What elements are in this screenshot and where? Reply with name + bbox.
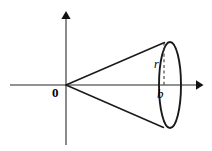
radius-label: r [154,58,159,70]
cone-diagram-figure: 0 r b [0,0,212,151]
x-axis [10,80,204,90]
cone-upper-slant-line [66,43,165,86]
y-axis [61,11,70,145]
base-position-label: b [157,87,164,100]
x-axis-arrowhead-icon [196,80,204,90]
y-axis-arrowhead-icon [61,11,70,19]
origin-label: 0 [52,86,59,99]
diagram-canvas [0,0,212,151]
cone-lower-slant-line [66,85,164,128]
